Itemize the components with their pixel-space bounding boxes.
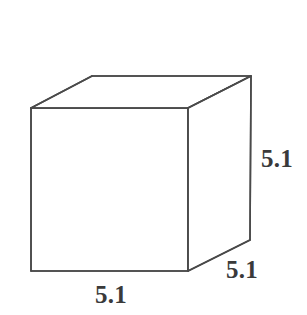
cube-figure: 5.1 5.1 5.1 [0, 0, 307, 315]
height-dimension-label: 5.1 [261, 146, 293, 171]
depth-dimension-label: 5.1 [226, 257, 258, 282]
width-dimension-label: 5.1 [95, 282, 127, 307]
cube-front-face [31, 108, 188, 271]
cube-edge-back-right-vertical [250, 76, 251, 240]
cube-right-face [188, 76, 251, 271]
